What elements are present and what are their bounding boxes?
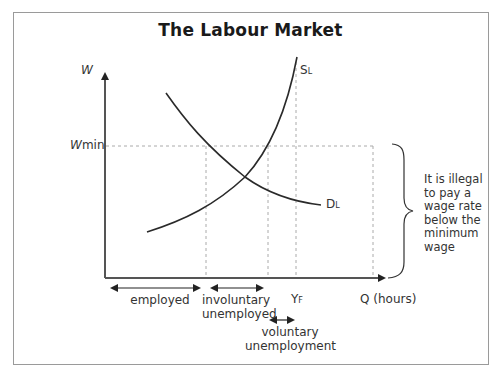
voluntary-label: voluntary unemployment	[245, 325, 335, 353]
guide-lines	[106, 62, 373, 278]
voluntary-label-line2: unemployment	[245, 339, 335, 353]
y-axis-label: W	[81, 63, 93, 77]
minimum-wage-note: It is illegal to pay a wage rate below t…	[424, 173, 483, 255]
x-axis-label: Q (hours)	[360, 292, 416, 306]
employed-label: employed	[122, 293, 198, 307]
yf-label-sub: F	[298, 296, 303, 305]
supply-label-sub: L	[308, 67, 312, 76]
involuntary-label: involuntary unemployed	[202, 293, 268, 321]
demand-curve	[166, 93, 321, 205]
supply-curve	[147, 57, 297, 232]
involuntary-label-line2: unemployed	[202, 307, 268, 321]
wmin-label-rest: min	[82, 138, 105, 152]
demand-label-sub: L	[335, 201, 339, 210]
involuntary-label-line1: involuntary	[202, 293, 268, 307]
note-line: wage	[424, 241, 483, 255]
yf-label: YF	[291, 292, 303, 306]
note-line: It is illegal	[424, 173, 483, 187]
supply-curve-label: SL	[300, 63, 312, 77]
wmin-label: Wmin	[70, 138, 105, 152]
note-line: wage rate	[424, 200, 483, 214]
note-line: below the	[424, 214, 483, 228]
voluntary-label-line1: voluntary	[245, 325, 335, 339]
demand-curve-label: DL	[326, 197, 340, 211]
supply-label-main: S	[300, 63, 308, 77]
brace-icon	[388, 144, 413, 278]
demand-label-main: D	[326, 197, 335, 211]
wmin-label-w: W	[70, 138, 82, 152]
note-line: minimum	[424, 227, 483, 241]
note-line: to pay a	[424, 187, 483, 201]
